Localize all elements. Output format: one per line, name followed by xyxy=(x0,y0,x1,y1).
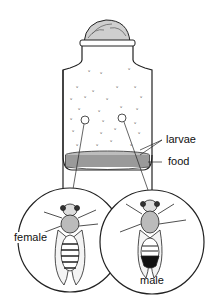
svg-text:ᵥ: ᵥ xyxy=(110,136,113,143)
svg-text:ᵥ: ᵥ xyxy=(116,82,119,89)
svg-text:ᵥ: ᵥ xyxy=(88,66,91,73)
svg-text:ᵥ: ᵥ xyxy=(100,128,103,135)
svg-text:ᵥ: ᵥ xyxy=(70,114,73,121)
flies-in-bottle: ᵥᵥᵥ ᵥᵥᵥᵥ ᵥᵥᵥᵥ ᵥᵥᵥᵥ ᵥᵥᵥ ᵥᵥᵥᵥ ᵥᵥᵥᵥ xyxy=(70,64,143,147)
food-label: food xyxy=(168,156,189,167)
svg-text:ᵥ: ᵥ xyxy=(138,128,141,135)
culture-bottle-illustration: ᵥᵥᵥ ᵥᵥᵥᵥ ᵥᵥᵥᵥ ᵥᵥᵥᵥ ᵥᵥᵥ ᵥᵥᵥᵥ ᵥᵥᵥᵥ xyxy=(0,0,214,300)
cotton-plug-icon xyxy=(84,20,130,42)
svg-text:ᵥ: ᵥ xyxy=(98,106,101,113)
female-label: female xyxy=(14,232,47,243)
svg-text:ᵥ: ᵥ xyxy=(114,124,117,131)
svg-text:ᵥ: ᵥ xyxy=(120,102,123,109)
svg-text:ᵥ: ᵥ xyxy=(76,82,79,89)
svg-text:ᵥ: ᵥ xyxy=(106,94,109,101)
svg-text:ᵥ: ᵥ xyxy=(134,118,137,125)
svg-text:ᵥ: ᵥ xyxy=(100,68,103,75)
svg-text:ᵥ: ᵥ xyxy=(84,92,87,99)
svg-text:ᵥ: ᵥ xyxy=(72,126,75,133)
svg-text:ᵥ: ᵥ xyxy=(102,116,105,123)
svg-text:ᵥ: ᵥ xyxy=(76,140,79,147)
svg-text:ᵥ: ᵥ xyxy=(140,92,143,99)
svg-text:ᵥ: ᵥ xyxy=(92,86,95,93)
svg-text:ᵥ: ᵥ xyxy=(70,94,73,101)
bottle-rim xyxy=(80,40,135,46)
svg-text:ᵥ: ᵥ xyxy=(128,64,131,71)
svg-text:ᵥ: ᵥ xyxy=(136,104,139,111)
larvae-label: larvae xyxy=(166,134,196,145)
svg-text:ᵥ: ᵥ xyxy=(134,82,137,89)
svg-text:ᵥ: ᵥ xyxy=(78,104,81,111)
svg-text:ᵥ: ᵥ xyxy=(96,140,99,147)
male-label: male xyxy=(140,275,164,286)
